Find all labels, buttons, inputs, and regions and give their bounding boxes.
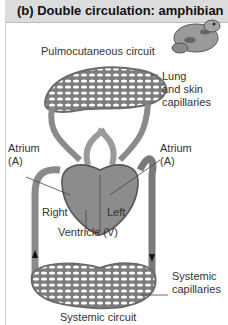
label-capillaries: capillaries — [162, 96, 211, 109]
systemic-capillary-bed — [32, 263, 156, 308]
label-lung: Lung — [162, 70, 186, 83]
label-systemic-circuit: Systemic circuit — [60, 311, 136, 324]
label-systemic: Systemic — [172, 270, 217, 283]
label-and-skin: and skin — [162, 83, 203, 96]
label-left: Left — [107, 206, 125, 219]
label-atrium-right-abbr: (A) — [160, 155, 175, 168]
label-pulmocutaneous-circuit: Pulmocutaneous circuit — [41, 45, 155, 58]
frog-icon — [172, 20, 220, 53]
label-right: Right — [42, 206, 68, 219]
label-ventricle: Ventricle (V) — [58, 226, 118, 239]
label-systemic-capillaries: capillaries — [172, 283, 221, 296]
label-atrium-left-abbr: (A) — [8, 155, 23, 168]
label-atrium-right: Atrium — [160, 142, 192, 155]
label-atrium-left: Atrium — [8, 142, 40, 155]
